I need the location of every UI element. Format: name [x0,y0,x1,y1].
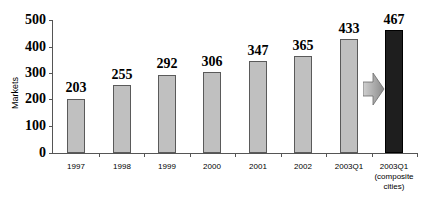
bar-value-label: 433 [329,22,369,36]
bar-value-label: 365 [283,39,323,53]
bar-2002 [294,56,312,153]
y-tick-label: 500 [12,13,46,27]
bar-1997 [67,99,85,153]
y-tick-label: 200 [12,92,46,106]
x-tick-label-line: cities) [371,182,417,192]
y-axis-line [52,20,53,154]
bar-2003q1 [340,39,358,153]
x-tick-mark [235,153,236,157]
y-tick-label: 0 [12,146,46,160]
x-tick-mark [372,153,373,157]
x-tick-mark [190,153,191,157]
bar-2000 [203,72,221,153]
y-tick-label: 400 [12,40,46,54]
x-tick-mark [281,153,282,157]
x-tick-label-line: 2003Q1 [371,162,417,172]
y-tick-label: 100 [12,119,46,133]
x-tick-label: 2001 [235,162,281,172]
x-tick-label: 2002 [280,162,326,172]
x-tick-mark [144,153,145,157]
bar-value-label: 203 [56,81,96,95]
bar-1999 [158,75,176,153]
arrow-right-icon [363,72,385,106]
x-tick-mark [417,153,418,157]
y-tick-label: 300 [12,66,46,80]
bar-2003q1-composite [385,30,403,153]
bar-value-label: 347 [238,44,278,58]
x-tick-label: 1998 [99,162,145,172]
x-tick-mark [326,153,327,157]
bar-value-label: 467 [374,13,414,27]
x-tick-label-line: (composite [371,172,417,182]
bar-2001 [249,61,267,153]
x-tick-label: 1999 [144,162,190,172]
x-tick-label: 2003Q1 (composite cities) [371,162,417,192]
x-tick-label: 1997 [53,162,99,172]
bar-value-label: 306 [192,55,232,69]
bar-value-label: 292 [147,57,187,71]
bar-value-label: 255 [102,68,142,82]
x-tick-label: 2003Q1 [326,162,372,172]
bar-1998 [113,85,131,153]
x-tick-label: 2000 [189,162,235,172]
x-tick-mark [99,153,100,157]
bar-chart: Markets 500 400 300 200 100 0 203 255 29… [0,0,428,209]
